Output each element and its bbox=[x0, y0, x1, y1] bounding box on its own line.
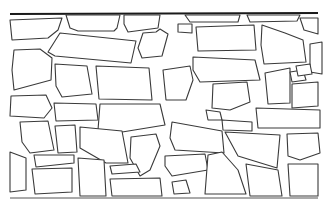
stone bbox=[34, 155, 74, 167]
stone bbox=[196, 25, 256, 51]
stone-wall-svg bbox=[0, 0, 326, 206]
stone bbox=[165, 154, 208, 176]
stone bbox=[32, 168, 72, 194]
stone bbox=[265, 68, 290, 104]
stone bbox=[288, 164, 318, 196]
stone bbox=[256, 108, 320, 128]
stone bbox=[206, 110, 222, 120]
stone bbox=[10, 95, 52, 118]
stone bbox=[66, 15, 120, 31]
stone bbox=[124, 15, 160, 32]
stone bbox=[246, 164, 282, 196]
stone bbox=[54, 103, 98, 121]
stone bbox=[170, 122, 224, 153]
stone bbox=[12, 49, 52, 90]
stone bbox=[296, 64, 312, 76]
stone bbox=[205, 152, 246, 194]
stone bbox=[163, 66, 193, 100]
stone bbox=[178, 24, 192, 33]
stone bbox=[48, 33, 136, 63]
stone bbox=[55, 64, 92, 97]
stone bbox=[96, 66, 152, 100]
stone bbox=[80, 127, 128, 163]
stone bbox=[222, 120, 252, 131]
stone bbox=[138, 29, 168, 58]
stone bbox=[110, 178, 162, 196]
stone bbox=[247, 15, 300, 22]
stone bbox=[172, 180, 190, 194]
stone bbox=[261, 25, 306, 64]
stone bbox=[110, 164, 140, 174]
stone bbox=[292, 82, 318, 108]
stone bbox=[10, 152, 26, 192]
stone-wall-drawing bbox=[0, 0, 326, 206]
stone bbox=[310, 42, 322, 74]
stone bbox=[185, 15, 240, 22]
stone bbox=[55, 125, 77, 153]
stone bbox=[10, 18, 62, 40]
stone bbox=[287, 133, 320, 160]
stone bbox=[300, 18, 318, 34]
stone bbox=[78, 158, 106, 196]
stone bbox=[193, 57, 260, 82]
stone bbox=[20, 121, 54, 153]
stone bbox=[212, 82, 250, 110]
stone bbox=[225, 132, 280, 168]
wall-top-line bbox=[10, 13, 318, 14]
